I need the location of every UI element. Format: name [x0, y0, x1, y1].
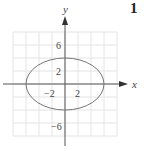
y-tick-neg6: −6 — [51, 121, 62, 132]
y-axis-label: y — [62, 3, 68, 15]
ellipse-graph: x y −2 2 6 2 −6 — [0, 0, 144, 151]
x-axis-label: x — [131, 78, 137, 90]
y-axis-arrow-icon — [62, 16, 68, 25]
x-tick-neg2: −2 — [44, 88, 55, 99]
y-tick-2: 2 — [56, 66, 61, 77]
x-tick-2: 2 — [75, 88, 80, 99]
y-tick-6: 6 — [56, 40, 61, 51]
x-axis-arrow-icon — [119, 81, 128, 87]
